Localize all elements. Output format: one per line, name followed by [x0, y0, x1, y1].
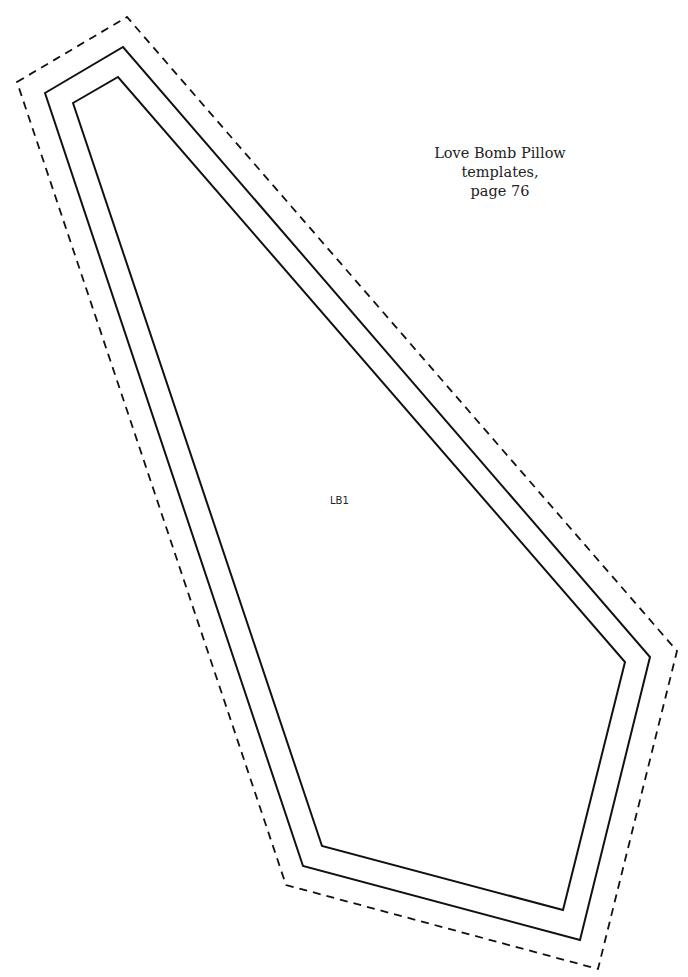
- caption-title: Love Bomb Pillow templates,: [400, 144, 600, 182]
- finish-line-inner: [73, 77, 625, 910]
- template-caption: Love Bomb Pillow templates, page 76: [400, 144, 600, 201]
- caption-page: page 76: [400, 182, 600, 201]
- piece-label: LB1: [330, 495, 349, 506]
